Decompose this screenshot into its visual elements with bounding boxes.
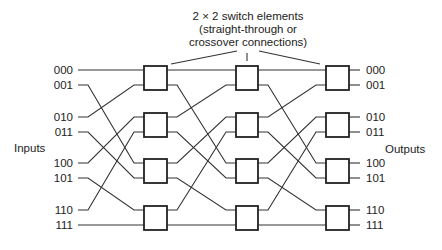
input-label: 011 (55, 126, 73, 138)
shuffle-wire (167, 85, 236, 117)
title-line-2: (straight-through or (199, 23, 297, 35)
input-label: 001 (54, 79, 73, 91)
input-label: 010 (54, 111, 73, 123)
switch-element-s3-3 (326, 206, 349, 230)
switch-element-s2-1 (236, 113, 258, 137)
shuffle-wire (258, 85, 326, 117)
switch-element-s3-2 (326, 159, 349, 183)
output-label: 010 (366, 111, 385, 123)
shuffle-wire (258, 132, 326, 210)
inputs-label: Inputs (14, 142, 46, 154)
input-label: 110 (55, 204, 73, 216)
output-label: 000 (366, 64, 385, 76)
switch-element-s2-2 (236, 159, 258, 183)
shuffle-wire (78, 85, 144, 117)
annotation-pointer-right (259, 51, 320, 64)
outputs-label: Outputs (385, 143, 426, 155)
switch-element-s1-1 (144, 113, 167, 137)
output-label: 110 (366, 204, 384, 216)
switch-element-s3-1 (326, 113, 349, 137)
switch-element-s1-3 (144, 206, 167, 230)
output-labels: 000001010011100101110111 (366, 64, 385, 231)
title-line-1: 2 × 2 switch elements (193, 10, 304, 22)
switch-element-s2-3 (236, 206, 258, 230)
shuffle-wire (167, 85, 236, 163)
shuffle-wire (78, 178, 144, 210)
output-label: 011 (366, 126, 384, 138)
shuffle-wire (167, 178, 236, 210)
shuffle-network-diagram: 2 × 2 switch elements (straight-through … (0, 0, 442, 250)
shuffle-wire (258, 85, 326, 163)
switch-element-s2-0 (236, 66, 258, 90)
input-label: 111 (56, 219, 73, 231)
switch-elements (144, 66, 349, 230)
output-label: 101 (366, 172, 385, 184)
input-labels: 000001010011100101110111 (54, 64, 73, 231)
annotation-title: 2 × 2 switch elements (straight-through … (171, 10, 320, 64)
wires (78, 70, 360, 225)
shuffle-wire (78, 132, 144, 210)
output-label: 111 (366, 219, 383, 231)
output-label: 001 (366, 79, 385, 91)
switch-element-s1-2 (144, 159, 167, 183)
shuffle-wire (167, 132, 236, 210)
annotation-pointer-left (171, 51, 237, 64)
switch-element-s3-0 (326, 66, 349, 90)
title-line-3: crossover connections) (189, 36, 307, 48)
shuffle-wire (258, 178, 326, 210)
input-label: 100 (54, 157, 73, 169)
output-label: 100 (366, 157, 385, 169)
switch-element-s1-0 (144, 66, 167, 90)
input-label: 000 (54, 64, 73, 76)
shuffle-wire (78, 85, 144, 163)
input-label: 101 (54, 172, 73, 184)
